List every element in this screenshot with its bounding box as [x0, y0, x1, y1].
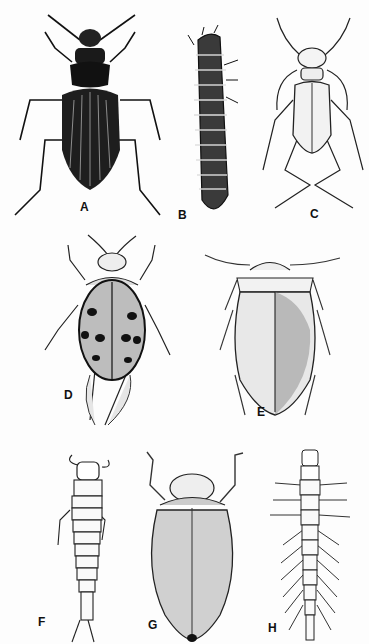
figure-a-ground-beetle [0, 0, 180, 200]
spotted-beetle-drawing [40, 230, 180, 430]
figure-b-beetle-larva [180, 25, 240, 220]
beetle-illustration-plate: A B [0, 0, 369, 644]
figure-label-g: G [148, 619, 157, 631]
water-scavenger-beetle-drawing [135, 450, 250, 644]
figure-d-spotted-beetle [40, 230, 180, 430]
figure-c-tiger-beetle [255, 10, 369, 210]
tiger-beetle-drawing [255, 10, 369, 210]
figure-label-a: A [80, 201, 89, 213]
aquatic-larva-drawing [50, 450, 120, 644]
figure-f-aquatic-larva [50, 450, 120, 644]
figure-label-f: F [38, 616, 45, 628]
figure-e-diving-beetle [195, 240, 360, 430]
figure-label-e: E [257, 406, 265, 418]
ground-beetle-drawing [0, 0, 180, 200]
figure-label-d: D [64, 389, 73, 401]
figure-h-whirligig-larva [265, 445, 365, 644]
figure-label-h: H [268, 622, 277, 634]
whirligig-larva-drawing [265, 445, 365, 644]
figure-g-water-scavenger-beetle [135, 450, 250, 644]
beetle-larva-drawing [180, 25, 240, 220]
figure-label-c: C [310, 208, 319, 220]
diving-beetle-drawing [195, 240, 360, 430]
figure-label-b: B [178, 209, 187, 221]
